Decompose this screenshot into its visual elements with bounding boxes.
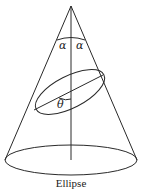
cone-section-diagram: α α θ Ellipse: [0, 0, 143, 190]
alpha-left-label: α: [59, 39, 67, 52]
figure-caption: Ellipse: [56, 177, 87, 189]
theta-label: θ: [57, 98, 64, 111]
alpha-right-label: α: [76, 39, 84, 52]
cone-left-side: [5, 6, 71, 160]
section-major-axis: [34, 75, 103, 110]
